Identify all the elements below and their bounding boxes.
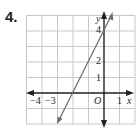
x-tick-neg3: −3 [45, 95, 56, 106]
x-axis-label: x [126, 95, 132, 106]
grid [27, 16, 136, 125]
y-axis-label: y [95, 13, 101, 24]
y-tick-2: 2 [96, 55, 101, 66]
x-tick-1: 1 [117, 95, 122, 106]
y-tick-1: 1 [96, 72, 101, 83]
origin-label: O [94, 95, 101, 106]
x-tick-neg4: −4 [30, 95, 41, 106]
graphed-line [57, 12, 113, 124]
y-tick-4: 4 [96, 24, 101, 35]
coordinate-graph: y 4 2 1 −4 −3 O 1 x [0, 0, 136, 129]
line-bottom-arrow-icon [57, 117, 63, 125]
